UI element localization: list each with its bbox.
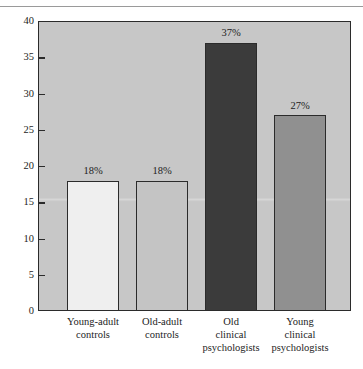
y-tick-mark-25 — [39, 130, 45, 131]
category-label-young-adult-controls: Young-adult controls — [54, 316, 132, 342]
category-label-young-clinical-psychologists: Young clinical psychologists — [257, 316, 343, 354]
bar-old-clinical-psychologists[interactable] — [205, 43, 257, 311]
y-tick-mark-40 — [39, 21, 45, 22]
y-tick-label-10: 10 — [16, 234, 34, 245]
y-tick-label-0: 0 — [16, 306, 34, 317]
y-tick-label-20: 20 — [16, 161, 34, 172]
y-tick-mark-30 — [39, 94, 45, 95]
y-tick-label-25: 25 — [16, 125, 34, 136]
y-tick-mark-5 — [39, 275, 45, 276]
y-tick-mark-15 — [39, 202, 45, 203]
bar-chart: 40 35 30 25 20 15 10 5 0 18% 18% 37% 27%… — [0, 0, 363, 369]
y-tick-mark-10 — [39, 239, 45, 240]
y-tick-mark-35 — [39, 57, 45, 58]
bar-value-young-clinical-psychologists: 27% — [274, 101, 326, 112]
bar-value-old-clinical-psychologists: 37% — [205, 28, 257, 39]
bar-young-adult-controls[interactable] — [67, 181, 119, 312]
bar-value-young-adult-controls: 18% — [67, 166, 119, 177]
bar-value-old-adult-controls: 18% — [136, 166, 188, 177]
y-tick-label-30: 30 — [16, 89, 34, 100]
bar-old-adult-controls[interactable] — [136, 181, 188, 312]
y-tick-mark-20 — [39, 166, 45, 167]
bar-young-clinical-psychologists[interactable] — [274, 115, 326, 311]
y-tick-label-35: 35 — [16, 52, 34, 63]
y-tick-label-40: 40 — [16, 16, 34, 27]
y-tick-label-15: 15 — [16, 197, 34, 208]
y-tick-label-5: 5 — [16, 270, 34, 281]
